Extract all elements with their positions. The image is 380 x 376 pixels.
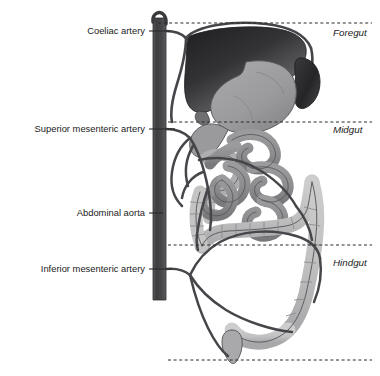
rectum-shape: [222, 330, 242, 364]
label-inferior-mesenteric-artery: Inferior mesenteric artery: [0, 264, 145, 273]
anatomy-illustration: [0, 0, 380, 376]
label-midgut: Midgut: [333, 125, 362, 135]
label-foregut: Foregut: [333, 28, 367, 38]
gut-arterial-supply-figure: Coeliac artery Superior mesenteric arter…: [0, 0, 380, 376]
label-abdominal-aorta: Abdominal aorta: [0, 208, 145, 217]
abdominal-aorta-shape: [153, 13, 166, 300]
label-superior-mesenteric-artery: Superior mesenteric artery: [0, 124, 145, 133]
spleen-shape: [295, 58, 320, 109]
label-coeliac-artery: Coeliac artery: [0, 26, 145, 35]
label-hindgut: Hindgut: [333, 258, 367, 268]
